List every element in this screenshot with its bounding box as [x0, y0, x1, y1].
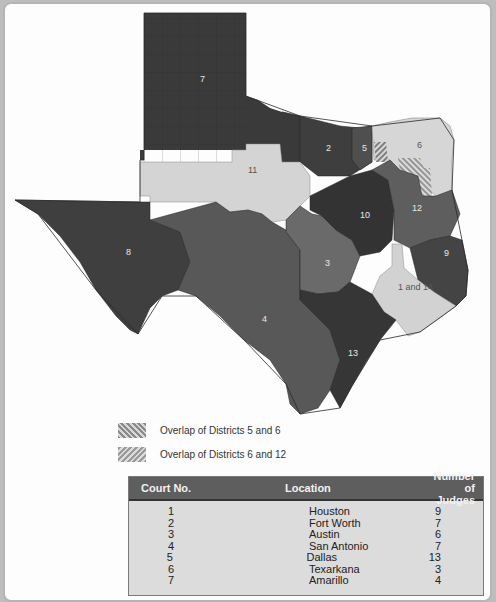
label-district-7: 7	[200, 74, 205, 84]
label-district-12: 12	[412, 203, 422, 213]
table-row: 2 Fort Worth 7	[129, 518, 483, 530]
cell-judges: 6	[435, 529, 483, 541]
label-district-11: 11	[248, 165, 257, 175]
table-row: 5 Dallas 13	[129, 552, 483, 564]
table-row: 6 Texarkana 3	[129, 564, 483, 576]
cell-judges: 3	[435, 564, 483, 576]
header-court-no: Court No.	[129, 482, 231, 494]
hatch-5-6-swatch-icon	[118, 423, 146, 438]
district-7-region	[140, 13, 300, 163]
label-district-5: 5	[362, 143, 367, 153]
cell-location: Austin	[213, 529, 435, 541]
cell-judges: 7	[435, 541, 483, 553]
header-location: Location	[231, 482, 425, 494]
label-district-4: 4	[262, 314, 267, 324]
overlap-5-6-area	[374, 142, 388, 162]
hatch-6-12-swatch-icon	[118, 447, 146, 462]
label-district-8: 8	[126, 247, 131, 257]
cell-court-no: 5	[129, 552, 211, 564]
label-district-13: 13	[348, 348, 358, 358]
legend-item-overlap-6-12: Overlap of Districts 6 and 12	[118, 443, 286, 465]
header-judges: Number of Judges	[425, 470, 483, 506]
label-district-3: 3	[325, 258, 330, 268]
table-row: 1 Houston 9	[129, 506, 483, 518]
table-body: 1 Houston 9 2 Fort Worth 7 3 Austin 6 4 …	[129, 501, 483, 587]
cell-court-no: 3	[129, 529, 213, 541]
cell-location: Dallas	[211, 552, 429, 564]
label-district-2: 2	[326, 143, 331, 153]
legend-label: Overlap of Districts 6 and 12	[160, 449, 286, 460]
label-district-9: 9	[444, 248, 449, 258]
cell-judges: 7	[435, 518, 483, 530]
legend-label: Overlap of Districts 5 and 6	[160, 425, 281, 436]
texas-district-map: 7 2 5 6 11 12 10 8 9 3 1 and 14 4 13	[0, 0, 496, 420]
cell-judges: 13	[429, 552, 483, 564]
cell-court-no: 1	[129, 506, 213, 518]
cell-location: Houston	[213, 506, 435, 518]
cell-court-no: 7	[129, 575, 213, 587]
legend-item-overlap-5-6: Overlap of Districts 5 and 6	[118, 419, 286, 441]
cell-judges: 9	[435, 506, 483, 518]
label-district-1-and-14: 1 and 14	[398, 282, 433, 292]
courts-table: Court No. Location Number of Judges 1 Ho…	[128, 476, 484, 596]
cell-judges: 4	[435, 575, 483, 587]
table-row: 7 Amarillo 4	[129, 575, 483, 587]
table-row: 3 Austin 6	[129, 529, 483, 541]
table-header: Court No. Location Number of Judges	[129, 477, 483, 501]
cell-location: Amarillo	[213, 575, 435, 587]
map-legend: Overlap of Districts 5 and 6 Overlap of …	[118, 419, 286, 467]
label-district-10: 10	[360, 210, 370, 220]
label-district-6: 6	[417, 140, 422, 150]
